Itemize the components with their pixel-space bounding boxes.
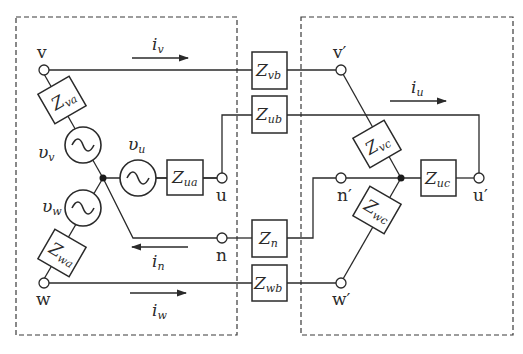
voltage-source-u xyxy=(120,160,156,196)
impedance-zvb: Zvb xyxy=(252,52,287,89)
svg-text:υu: υu xyxy=(128,134,145,156)
impedance-zub: Zub xyxy=(252,96,287,133)
terminal-n-prime-label: n′ xyxy=(337,185,352,205)
terminal-v-prime-label: v′ xyxy=(332,42,347,62)
terminal-w-prime xyxy=(336,278,346,288)
terminal-u-prime xyxy=(474,173,484,183)
impedance-zwc: Zwc xyxy=(353,186,401,233)
terminal-n-prime xyxy=(336,173,346,183)
impedance-zva: Zva xyxy=(38,76,86,123)
impedance-zua: Zua xyxy=(167,160,203,195)
terminal-n-label: n xyxy=(216,245,227,265)
svg-text:iu: iu xyxy=(411,77,424,99)
svg-text:υw: υw xyxy=(42,196,62,218)
terminal-v-label: v xyxy=(36,42,47,62)
terminal-u-label: u xyxy=(216,185,227,205)
neutral-node-source xyxy=(100,175,107,182)
impedance-zuc: Zuc xyxy=(421,160,456,196)
impedance-zn: Zn xyxy=(252,220,287,257)
terminal-w-label: w xyxy=(36,289,51,309)
impedance-zwa: Zwa xyxy=(38,229,86,276)
svg-text:iv: iv xyxy=(152,34,164,56)
terminal-u-prime-label: u′ xyxy=(473,185,488,205)
svg-text:iw: iw xyxy=(152,300,167,322)
wire-n-load xyxy=(287,178,337,238)
svg-text:υv: υv xyxy=(38,142,55,164)
terminal-v xyxy=(39,65,49,75)
impedance-zwb: Zwb xyxy=(252,265,287,301)
terminal-v-prime xyxy=(336,65,346,75)
voltage-source-w xyxy=(65,190,101,226)
neutral-node-load xyxy=(398,175,405,182)
svg-text:in: in xyxy=(152,251,165,273)
terminal-w-prime-label: w′ xyxy=(332,289,351,309)
impedance-zvc: Zvc xyxy=(353,120,401,167)
terminal-w xyxy=(39,278,49,288)
circuit-diagram: Zva υv υw Zwa υu Zua v u n w Zvb xyxy=(0,0,523,354)
terminal-n xyxy=(217,233,227,243)
voltage-source-v xyxy=(65,127,101,163)
terminal-u xyxy=(217,173,227,183)
